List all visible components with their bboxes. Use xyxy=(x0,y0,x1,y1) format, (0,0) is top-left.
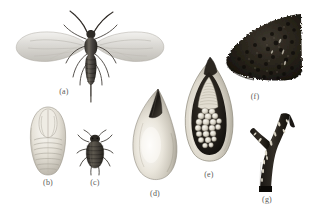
figure-g-caption: (g) xyxy=(255,195,279,204)
figure-c-wingless-nymph xyxy=(76,129,114,177)
gall-stalk xyxy=(204,57,217,76)
figure-c-caption: (c) xyxy=(83,178,107,187)
figure-b-caption: (b) xyxy=(36,178,60,187)
figure-g-infested-twig xyxy=(243,112,297,194)
head-icon xyxy=(86,30,95,39)
figure-b-pupa xyxy=(25,106,71,176)
twig-main-stem xyxy=(260,113,290,190)
antennae-icon xyxy=(70,11,113,32)
mass-body xyxy=(227,14,302,81)
twig-spur xyxy=(289,115,295,127)
illustration-plate: (a) xyxy=(0,0,318,223)
abdomen-icon xyxy=(85,54,96,85)
figure-e-caption: (e) xyxy=(197,170,221,179)
thorax-icon xyxy=(84,38,97,57)
figure-d-caption: (d) xyxy=(143,189,167,198)
figure-d-gall-exterior xyxy=(129,87,181,185)
figure-f-infested-leaf-mass xyxy=(222,12,304,88)
figure-a-caption: (a) xyxy=(52,87,76,96)
figure-f-caption: (f) xyxy=(243,92,267,101)
twig-base-cut xyxy=(259,186,272,192)
right-wing-icon xyxy=(96,32,164,62)
left-wing-icon xyxy=(16,32,86,62)
